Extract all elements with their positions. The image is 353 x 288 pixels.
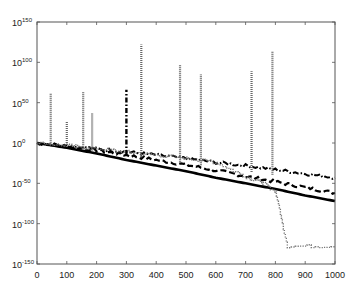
x-tick-label: 800 (268, 270, 283, 280)
x-tick-label: 100 (59, 270, 74, 280)
y-tick-label: 10100 (12, 57, 33, 68)
x-tick-label: 300 (119, 270, 134, 280)
y-tick-label: 1050 (12, 98, 29, 109)
y-tick-label: 10-50 (12, 178, 31, 189)
y-tick-label: 10-100 (12, 219, 35, 230)
x-tick-label: 400 (149, 270, 164, 280)
series-dash-dot (37, 143, 335, 179)
plot-area (37, 45, 335, 248)
x-tick-label: 200 (89, 270, 104, 280)
x-tick-label: 500 (178, 270, 193, 280)
x-tick-label: 1000 (325, 270, 345, 280)
y-tick-label: 10150 (12, 17, 33, 28)
x-tick-label: 700 (238, 270, 253, 280)
y-axis: 1015010100105010010-5010-10010-150 (12, 17, 335, 270)
plot-frame (37, 22, 335, 264)
x-tick-label: 900 (298, 270, 313, 280)
y-tick-label: 100 (12, 138, 26, 149)
y-tick-label: 10-150 (12, 259, 35, 270)
line-chart: 01002003004005006007008009001000 1015010… (0, 0, 353, 288)
x-tick-label: 0 (34, 270, 39, 280)
x-tick-label: 600 (208, 270, 223, 280)
